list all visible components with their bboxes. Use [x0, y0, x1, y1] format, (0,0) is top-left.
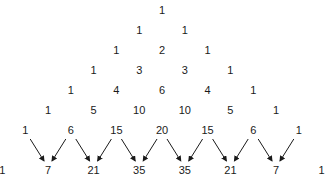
triangle-number: 7: [273, 164, 279, 176]
triangle-number: 4: [205, 84, 211, 96]
triangle-number: 1: [250, 84, 256, 96]
triangle-number: 1: [296, 124, 302, 136]
arrow-icon: [52, 139, 66, 161]
triangle-number: 1: [22, 124, 28, 136]
triangle-number: 5: [227, 104, 233, 116]
triangle-number: 5: [91, 104, 97, 116]
arrow-icon: [258, 139, 272, 161]
triangle-number: 10: [133, 104, 145, 116]
arrow-icon: [121, 139, 135, 161]
arrow-icon: [30, 139, 44, 161]
triangle-number: 1: [0, 164, 5, 176]
triangle-number: 3: [136, 64, 142, 76]
triangle-number: 35: [179, 164, 191, 176]
arrow-icon: [167, 139, 181, 161]
triangle-number: 1: [227, 64, 233, 76]
triangle-number: 1: [319, 164, 325, 176]
arrow-icon: [76, 139, 90, 161]
arrow-icon: [234, 139, 248, 161]
triangle-number: 15: [201, 124, 213, 136]
triangle-number: 6: [68, 124, 74, 136]
triangle-number: 6: [159, 84, 165, 96]
triangle-number: 1: [91, 64, 97, 76]
triangle-number: 15: [110, 124, 122, 136]
triangle-number: 35: [133, 164, 145, 176]
triangle-number: 20: [156, 124, 168, 136]
arrow-icon: [213, 139, 227, 161]
arrow-icon: [280, 139, 294, 161]
triangle-number: 21: [224, 164, 236, 176]
triangle-number: 7: [45, 164, 51, 176]
triangle-number: 1: [159, 4, 165, 16]
triangle-number: 1: [136, 24, 142, 36]
triangle-number: 6: [250, 124, 256, 136]
triangle-number: 2: [159, 44, 165, 56]
triangle-number: 1: [45, 104, 51, 116]
triangle-number: 21: [87, 164, 99, 176]
sum-arrows: [0, 0, 333, 186]
triangle-number: 1: [182, 24, 188, 36]
triangle-number: 1: [205, 44, 211, 56]
arrow-icon: [98, 139, 112, 161]
triangle-number: 1: [113, 44, 119, 56]
triangle-number: 1: [68, 84, 74, 96]
arrow-icon: [189, 139, 203, 161]
arrow-icon: [143, 139, 157, 161]
triangle-number: 1: [273, 104, 279, 116]
triangle-number: 10: [179, 104, 191, 116]
triangle-number: 4: [113, 84, 119, 96]
triangle-number: 3: [182, 64, 188, 76]
